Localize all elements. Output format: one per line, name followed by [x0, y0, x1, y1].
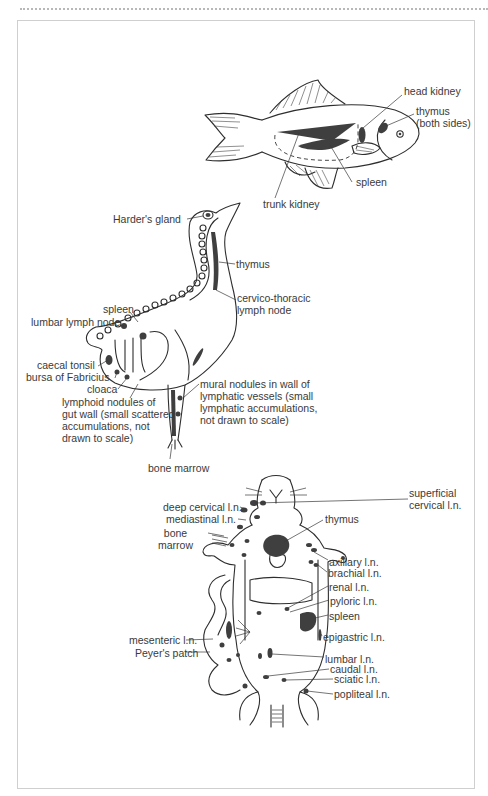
label-bursa-of-fabricius: bursa of Fabricius: [26, 371, 109, 383]
label-renal-ln: renal l.n.: [329, 581, 369, 593]
label-cervico-thoracic-lymph-node: cervico-thoracic lymph node: [237, 292, 311, 316]
label-lumbar-lymph-node: lumbar lymph node: [31, 316, 120, 328]
label-mural-nodules: mural nodules in wall of lymphatic vesse…: [200, 378, 317, 426]
label-mouse-thymus: thymus: [325, 513, 359, 525]
label-pyloric-ln: pyloric l.n.: [330, 595, 377, 607]
label-head-kidney: head kidney: [404, 85, 461, 97]
label-mouse-bone-marrow: bone marrow: [158, 527, 193, 551]
label-superficial-cervical-ln: superficial cervical l.n.: [409, 487, 462, 511]
label-sciatic-ln: sciatic l.n.: [334, 673, 380, 685]
label-bird-spleen: spleen: [103, 303, 134, 315]
label-popliteal-ln: popliteal l.n.: [334, 688, 390, 700]
label-cloaca: cloaca: [87, 383, 117, 395]
label-fish-thymus: thymus (both sides): [416, 105, 471, 129]
label-deep-cervical-ln: deep cervical l.n.: [163, 501, 242, 513]
label-epigastric-ln: epigastric l.n.: [323, 631, 385, 643]
label-mouse-spleen: spleen: [329, 610, 360, 622]
label-fish-spleen: spleen: [356, 176, 387, 188]
label-peyers-patch: Peyer's patch: [135, 647, 198, 659]
label-brachial-ln: brachial l.n.: [328, 567, 382, 579]
label-harders-gland: Harder's gland: [113, 213, 181, 225]
label-mesenteric-ln: mesenteric l.n.: [129, 634, 197, 646]
label-lymphoid-nodules-gut-wall: lymphoid nodules of gut wall (small scat…: [62, 396, 175, 444]
label-bird-bone-marrow: bone marrow: [148, 462, 209, 474]
label-caecal-tonsil: caecal tonsil: [37, 359, 95, 371]
label-bird-thymus: thymus: [236, 258, 270, 270]
label-trunk-kidney: trunk kidney: [263, 198, 320, 210]
label-mediastinal-ln: mediastinal l.n.: [166, 513, 236, 525]
